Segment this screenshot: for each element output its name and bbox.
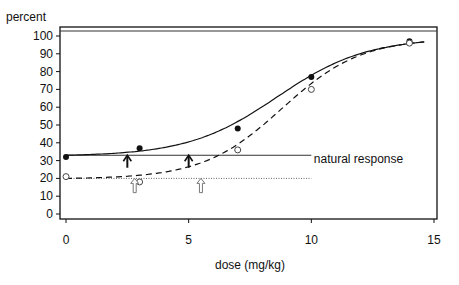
y-tick-label: 0 [46,207,53,221]
open-data-point [406,40,412,46]
y-tick-label: 100 [33,29,53,43]
filled-data-point [308,74,314,80]
open-data-point [63,174,69,180]
annotation-arrows [123,155,205,192]
dose-response-chart: 0102030405060708090100051015 percent dos… [0,0,459,285]
y-tick-label: 60 [40,100,54,114]
y-tick-label: 40 [40,136,54,150]
x-tick-label: 15 [427,233,441,247]
y-tick-label: 30 [40,154,54,168]
y-tick-label: 80 [40,65,54,79]
x-tick-label: 0 [63,233,70,247]
filled-data-point [63,154,69,160]
axes: 0102030405060708090100051015 [33,27,441,247]
solid-fitted-curve [66,42,424,155]
x-tick-label: 5 [185,233,192,247]
y-tick-label: 20 [40,171,54,185]
filled-data-point [235,126,241,132]
y-tick-label: 90 [40,47,54,61]
hollow-arrow-icon [197,178,205,192]
filled-data-point [137,145,143,151]
natural-response-label: natural response [314,152,404,166]
x-axis-label: dose (mg/kg) [215,258,285,272]
y-tick-label: 70 [40,82,54,96]
plot-frame [60,27,437,219]
open-data-point [235,147,241,153]
y-tick-label: 10 [40,189,54,203]
y-axis-label: percent [6,10,47,24]
y-tick-label: 50 [40,118,54,132]
x-tick-label: 10 [305,233,319,247]
open-data-point [308,86,314,92]
